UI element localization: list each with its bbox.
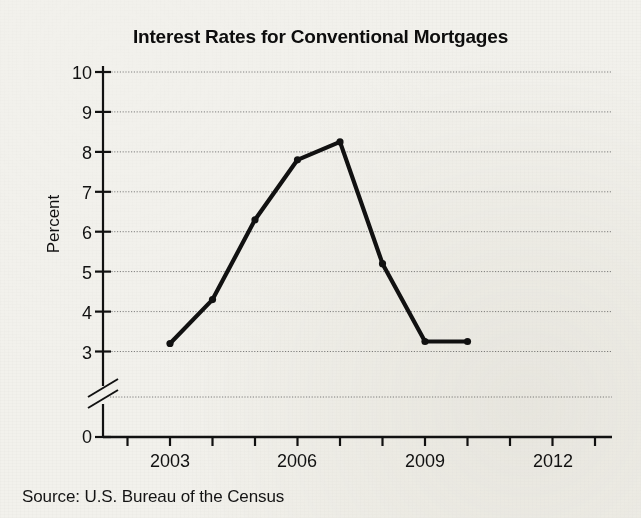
gridlines	[103, 72, 612, 397]
data-point-2010	[464, 338, 471, 345]
data-series-markers	[166, 138, 471, 347]
data-point-2007	[336, 138, 343, 145]
x-axis-ticks	[128, 437, 596, 446]
data-point-2003	[166, 340, 173, 347]
data-point-2008	[379, 260, 386, 267]
data-point-2009	[421, 338, 428, 345]
data-point-2004	[209, 296, 216, 303]
chart-plot-area	[0, 0, 641, 518]
data-point-2005	[251, 216, 258, 223]
data-series-line	[170, 142, 468, 344]
data-point-2006	[294, 156, 301, 163]
